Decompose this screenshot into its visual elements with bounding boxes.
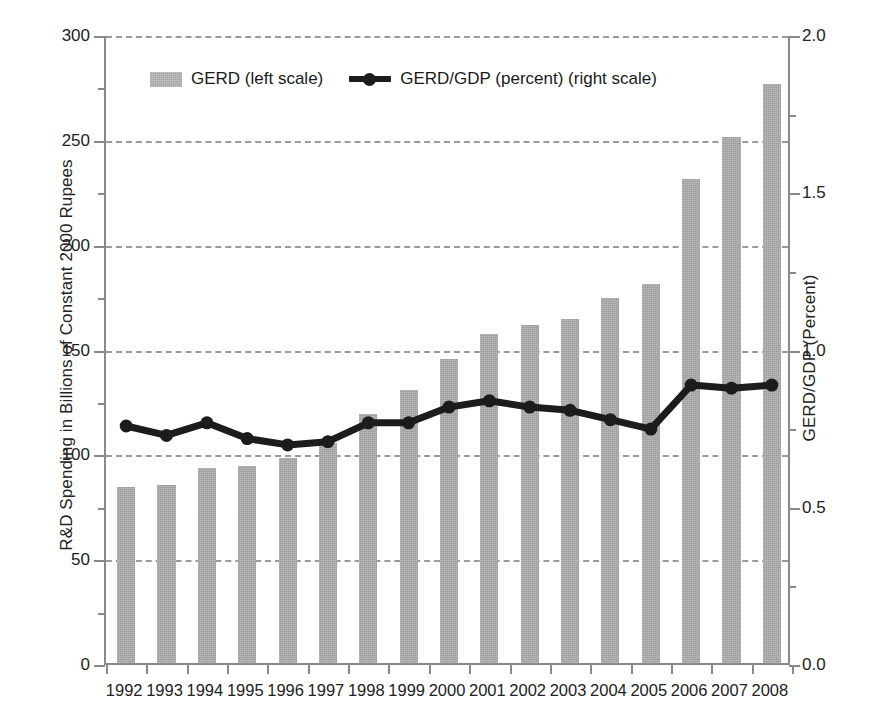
x-axis-label-2004: 2004 — [590, 681, 627, 700]
line-marker-1998 — [362, 416, 375, 429]
line-marker-1995 — [241, 432, 254, 445]
line-marker-2003 — [564, 404, 577, 417]
chart-container: R&D Spending in Billions of Constant 200… — [0, 0, 884, 721]
y-axis-right-tick-label: 1.0 — [802, 341, 862, 361]
x-axis-label-1996: 1996 — [267, 681, 304, 700]
line-markers — [120, 379, 779, 452]
legend-entry-gerd: GERD (left scale) — [150, 69, 323, 89]
line-marker-2008 — [765, 379, 778, 392]
y-axis-left-tick-label: 0 — [20, 655, 90, 675]
line-marker-2000 — [443, 401, 456, 414]
x-axis: 1992199319941995199619971998199920002001… — [104, 667, 790, 721]
y-axis-right-tick-mark — [789, 665, 800, 667]
line-swatch-icon — [349, 72, 391, 86]
line-marker-2004 — [604, 413, 617, 426]
y-axis-right-tick-label: 2.0 — [802, 26, 862, 46]
x-axis-label-1994: 1994 — [187, 681, 224, 700]
y-axis-left-tick-label: 100 — [20, 445, 90, 465]
line-marker-2001 — [483, 394, 496, 407]
plot-area — [104, 36, 790, 665]
x-axis-label-2003: 2003 — [550, 681, 587, 700]
line-marker-2002 — [523, 401, 536, 414]
x-axis-label-2007: 2007 — [711, 681, 748, 700]
legend-entry-gerd-gdp: GERD/GDP (percent) (right scale) — [349, 69, 657, 89]
x-axis-label-2006: 2006 — [671, 681, 708, 700]
x-axis-label-2001: 2001 — [469, 681, 506, 700]
y-axis-right-tick-label: 1.5 — [802, 183, 862, 203]
y-axis-left-tick-label: 300 — [20, 26, 90, 46]
line-marker-1997 — [321, 435, 334, 448]
x-axis-label-2005: 2005 — [630, 681, 667, 700]
line-series — [106, 36, 792, 665]
y-axis-left-tick-label: 50 — [20, 550, 90, 570]
line-marker-1996 — [281, 438, 294, 451]
x-axis-tick-mark — [792, 665, 794, 674]
line-marker-1994 — [200, 416, 213, 429]
chart-legend: GERD (left scale) GERD/GDP (percent) (ri… — [150, 69, 657, 89]
x-axis-label-2008: 2008 — [751, 681, 788, 700]
y-axis-left-tick-label: 150 — [20, 341, 90, 361]
y-axis-right-tick-label: 0.0 — [802, 655, 862, 675]
line-path — [126, 385, 772, 445]
line-marker-1992 — [120, 420, 133, 433]
bar-swatch-icon — [150, 72, 182, 87]
y-axis-left-tick-label: 250 — [20, 131, 90, 151]
x-axis-label-1993: 1993 — [146, 681, 183, 700]
y-axis-left-tick-label: 200 — [20, 236, 90, 256]
legend-label-gerd-gdp: GERD/GDP (percent) (right scale) — [400, 69, 657, 89]
x-axis-label-1992: 1992 — [106, 681, 143, 700]
x-axis-label-2002: 2002 — [509, 681, 546, 700]
line-marker-2006 — [685, 379, 698, 392]
x-axis-label-1998: 1998 — [348, 681, 385, 700]
legend-label-gerd: GERD (left scale) — [191, 69, 323, 89]
x-axis-label-1995: 1995 — [227, 681, 264, 700]
line-marker-1999 — [402, 416, 415, 429]
x-axis-label-1997: 1997 — [308, 681, 345, 700]
line-marker-2005 — [644, 423, 657, 436]
x-axis-label-2000: 2000 — [429, 681, 466, 700]
x-axis-label-1999: 1999 — [388, 681, 425, 700]
y-axis-right-tick-label: 0.5 — [802, 498, 862, 518]
line-marker-2007 — [725, 382, 738, 395]
line-marker-1993 — [160, 429, 173, 442]
